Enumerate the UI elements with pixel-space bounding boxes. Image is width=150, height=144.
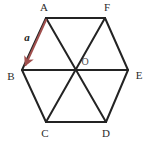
hexagon-figure: A F E D C B O a: [0, 0, 150, 144]
vector-a-label: a: [24, 31, 30, 43]
vertex-label-F: F: [104, 1, 110, 13]
vertex-label-D: D: [102, 127, 110, 139]
edge-FE: [105, 18, 128, 70]
edge-CB: [22, 70, 46, 122]
vertex-label-C: C: [41, 127, 48, 139]
vertex-label-B: B: [7, 70, 14, 82]
hexagon-diagram-svg: A F E D C B O a: [0, 0, 150, 144]
vertex-label-A: A: [40, 1, 48, 13]
vertex-label-E: E: [136, 69, 143, 81]
center-label-O: O: [81, 56, 88, 67]
edge-ED: [106, 70, 128, 122]
